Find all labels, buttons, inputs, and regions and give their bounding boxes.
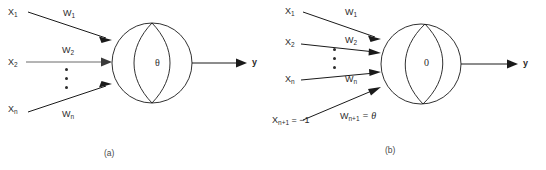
input-line-2 — [26, 58, 112, 67]
weight-label-w2: W2 — [345, 36, 357, 45]
panel-a-diagram — [0, 0, 273, 170]
input-ellipsis — [333, 48, 336, 69]
node-symbol-theta: θ — [155, 58, 160, 68]
node-symbol-zero: 0 — [424, 58, 429, 68]
weight-label-w2: W2 — [62, 46, 74, 55]
neuron-body — [112, 23, 192, 103]
input-line-1 — [303, 12, 381, 42]
weight-label-w1: W1 — [345, 8, 357, 17]
input-label-x1: X1 — [285, 7, 295, 16]
panel-a: X1 X2 Xn W1 W2 Wn θ y (a) — [0, 0, 273, 170]
input-label-x1: X1 — [8, 8, 18, 17]
panel-b-diagram — [273, 0, 546, 170]
weight-label-wn: Wn — [62, 110, 74, 119]
input-label-xn: Xn — [8, 105, 18, 114]
panel-a-caption: (a) — [104, 148, 114, 158]
output-line — [192, 59, 247, 68]
output-label-y: y — [252, 58, 257, 67]
input-label-xn: Xn — [285, 75, 295, 84]
output-line — [461, 60, 518, 69]
weight-label-wn: Wn — [345, 75, 357, 84]
panel-b: X1 X2 Xn Xn+1 = −1 W1 W2 Wn Wn+1 = θ 0 y… — [273, 0, 546, 170]
panel-b-caption: (b) — [385, 145, 395, 155]
neuron-model-figure: X1 X2 Xn W1 W2 Wn θ y (a) — [0, 0, 546, 170]
neuron-body — [381, 24, 461, 104]
weight-label-wn1-bias: Wn+1 = θ — [340, 111, 376, 121]
input-label-xn1-bias: Xn+1 = −1 — [272, 116, 310, 125]
input-label-x2: X2 — [8, 58, 18, 67]
input-ellipsis — [65, 68, 68, 89]
input-line-n — [301, 69, 381, 80]
input-label-x2: X2 — [285, 38, 295, 47]
output-label-y: y — [523, 59, 528, 68]
weight-label-w1: W1 — [63, 9, 75, 18]
input-line-2 — [301, 44, 381, 56]
input-line-n — [28, 81, 112, 112]
